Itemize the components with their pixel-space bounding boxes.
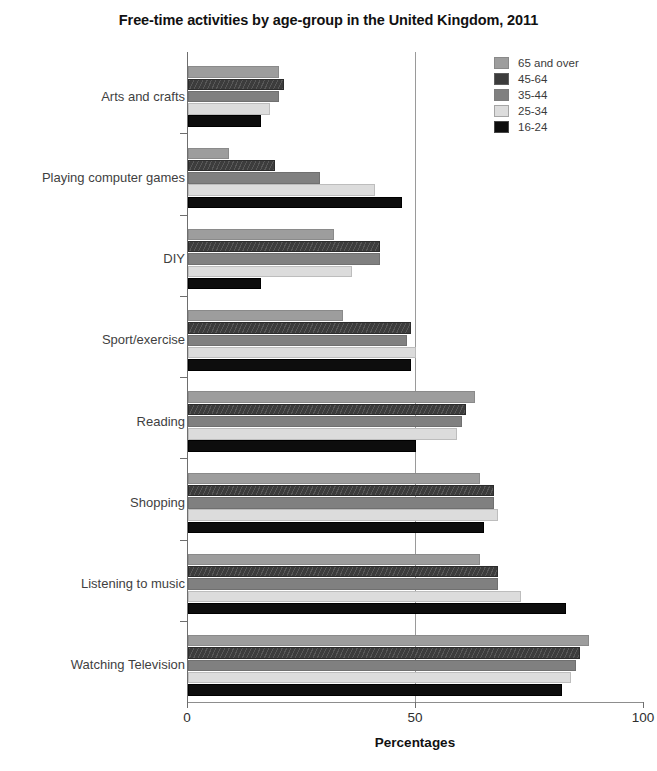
bar-row: [188, 603, 643, 614]
bar-group: [188, 391, 643, 452]
bar[interactable]: [188, 440, 416, 451]
bar-row: [188, 322, 643, 333]
bar-row: [188, 253, 643, 264]
bar[interactable]: [188, 416, 462, 427]
bar[interactable]: [188, 347, 416, 358]
x-axis-tick: [415, 702, 416, 708]
bar[interactable]: [188, 335, 407, 346]
bar-group: [188, 66, 643, 127]
bar-row: [188, 554, 643, 565]
bar[interactable]: [188, 322, 411, 333]
bar-row: [188, 160, 643, 171]
y-axis-label: Shopping: [130, 496, 185, 510]
y-axis-tick: [180, 540, 187, 541]
y-axis-label: Watching Television: [71, 658, 185, 672]
bar-row: [188, 172, 643, 183]
bar-group: [188, 554, 643, 615]
bar-row: [188, 148, 643, 159]
bar[interactable]: [188, 635, 589, 646]
bar-row: [188, 229, 643, 240]
bar-row: [188, 335, 643, 346]
bar-group: [188, 635, 643, 696]
bar-group: [188, 473, 643, 534]
bar[interactable]: [188, 566, 498, 577]
x-axis-title: Percentages: [187, 735, 643, 750]
y-axis-label: Playing computer games: [42, 171, 185, 185]
bar[interactable]: [188, 197, 402, 208]
y-axis-tick: [180, 621, 187, 622]
y-axis-label: Arts and crafts: [101, 90, 185, 104]
bar-row: [188, 103, 643, 114]
y-axis-label: Sport/exercise: [102, 333, 185, 347]
bar[interactable]: [188, 485, 494, 496]
chart-title: Free-time activities by age-group in the…: [0, 12, 657, 28]
bar[interactable]: [188, 578, 498, 589]
bar[interactable]: [188, 266, 352, 277]
bar-group: [188, 229, 643, 290]
bar-row: [188, 416, 643, 427]
bar[interactable]: [188, 184, 375, 195]
bar-row: [188, 485, 643, 496]
bar[interactable]: [188, 404, 466, 415]
bar-row: [188, 672, 643, 683]
bar-row: [188, 278, 643, 289]
bar-row: [188, 79, 643, 90]
bar[interactable]: [188, 278, 261, 289]
bar-row: [188, 473, 643, 484]
bar-row: [188, 497, 643, 508]
bar[interactable]: [188, 103, 270, 114]
bar[interactable]: [188, 647, 580, 658]
bar[interactable]: [188, 603, 566, 614]
bar-row: [188, 184, 643, 195]
bar[interactable]: [188, 509, 498, 520]
bar[interactable]: [188, 359, 411, 370]
bar[interactable]: [188, 554, 480, 565]
bar[interactable]: [188, 473, 480, 484]
bar-group: [188, 310, 643, 371]
y-axis-tick: [180, 133, 187, 134]
bar-row: [188, 91, 643, 102]
bar-chart: Free-time activities by age-group in the…: [0, 0, 657, 771]
bar[interactable]: [188, 66, 279, 77]
x-axis-tick-label: 0: [183, 710, 191, 725]
bar-row: [188, 197, 643, 208]
plot-area: 050100: [187, 52, 643, 702]
x-axis-tick-label: 100: [632, 710, 655, 725]
bar[interactable]: [188, 310, 343, 321]
bar-row: [188, 428, 643, 439]
bar[interactable]: [188, 660, 576, 671]
bar-row: [188, 591, 643, 602]
bar[interactable]: [188, 229, 334, 240]
bar-row: [188, 266, 643, 277]
bar-row: [188, 647, 643, 658]
bar-row: [188, 391, 643, 402]
bar-row: [188, 347, 643, 358]
bar-row: [188, 660, 643, 671]
bar[interactable]: [188, 148, 229, 159]
x-axis-tick: [187, 702, 188, 708]
bar-row: [188, 359, 643, 370]
y-axis-tick: [180, 377, 187, 378]
bar[interactable]: [188, 391, 475, 402]
bar[interactable]: [188, 115, 261, 126]
bar-row: [188, 241, 643, 252]
bar[interactable]: [188, 672, 571, 683]
bar[interactable]: [188, 428, 457, 439]
y-axis-tick: [180, 215, 187, 216]
bar[interactable]: [188, 91, 279, 102]
bar[interactable]: [188, 497, 494, 508]
bar[interactable]: [188, 79, 284, 90]
bar-row: [188, 522, 643, 533]
y-axis-label: Listening to music: [81, 577, 185, 591]
y-axis-label: DIY: [163, 252, 185, 266]
bar[interactable]: [188, 160, 275, 171]
bar[interactable]: [188, 172, 320, 183]
bar[interactable]: [188, 591, 521, 602]
bar[interactable]: [188, 684, 562, 695]
bar[interactable]: [188, 253, 380, 264]
bar-group: [188, 148, 643, 209]
x-axis-tick-label: 50: [407, 710, 422, 725]
bar-row: [188, 578, 643, 589]
bar[interactable]: [188, 241, 380, 252]
bar[interactable]: [188, 522, 484, 533]
